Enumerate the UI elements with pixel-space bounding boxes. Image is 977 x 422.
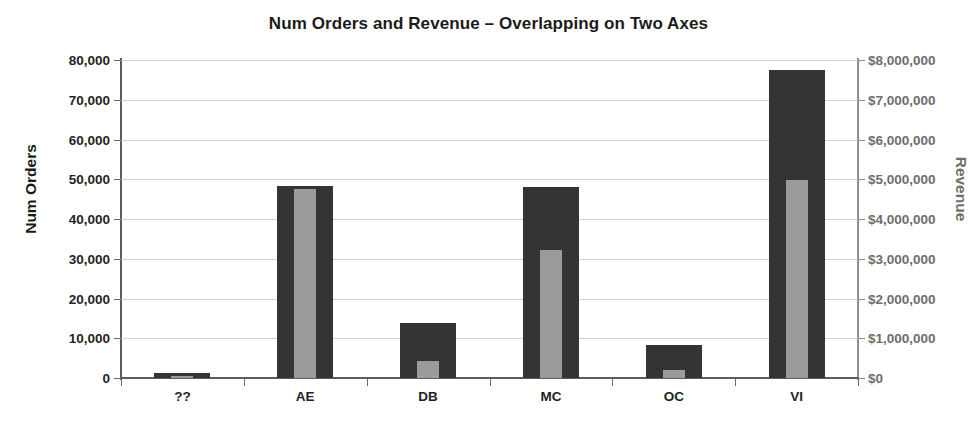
bar-revenue bbox=[294, 189, 316, 378]
gridline bbox=[121, 100, 858, 101]
y-axis-right-tick-label: $6,000,000 bbox=[868, 132, 973, 147]
y-axis-right-tick-label: $5,000,000 bbox=[868, 172, 973, 187]
x-axis-tick-label: OC bbox=[664, 389, 684, 404]
y-axis-left-tick bbox=[114, 299, 121, 300]
y-axis-right-tick bbox=[858, 140, 865, 141]
y-axis-left-tick-label: 10,000 bbox=[0, 331, 110, 346]
x-axis-tick bbox=[735, 379, 736, 386]
gridline bbox=[121, 140, 858, 141]
bar-revenue bbox=[417, 361, 439, 378]
chart-title: Num Orders and Revenue – Overlapping on … bbox=[0, 14, 977, 34]
y-axis-left-tick bbox=[114, 259, 121, 260]
y-axis-left-tick-label: 80,000 bbox=[0, 53, 110, 68]
y-axis-left-tick-label: 20,000 bbox=[0, 291, 110, 306]
y-axis-left-tick-label: 50,000 bbox=[0, 172, 110, 187]
x-axis-tick bbox=[121, 379, 122, 386]
gridline bbox=[121, 299, 858, 300]
x-axis-tick-label: VI bbox=[790, 389, 803, 404]
y-axis-right-tick bbox=[858, 378, 865, 379]
y-axis-right-tick-label: $4,000,000 bbox=[868, 212, 973, 227]
bar-revenue bbox=[786, 180, 808, 378]
x-axis-tick-label: ?? bbox=[174, 389, 191, 404]
y-axis-right-tick bbox=[858, 100, 865, 101]
y-axis-right-tick-label: $0 bbox=[868, 371, 973, 386]
y-axis-left-tick bbox=[114, 338, 121, 339]
y-axis-right-tick-label: $8,000,000 bbox=[868, 53, 973, 68]
y-axis-left-tick bbox=[114, 179, 121, 180]
x-axis-tick-label: DB bbox=[418, 389, 438, 404]
y-axis-left-tick-label: 40,000 bbox=[0, 212, 110, 227]
y-axis-right-tick bbox=[858, 179, 865, 180]
y-axis-right-tick bbox=[858, 299, 865, 300]
y-axis-left-tick bbox=[114, 219, 121, 220]
y-axis-right-tick-label: $2,000,000 bbox=[868, 291, 973, 306]
x-axis-tick bbox=[858, 379, 859, 386]
gridline bbox=[121, 179, 858, 180]
gridline bbox=[121, 60, 858, 61]
y-axis-left-tick-label: 70,000 bbox=[0, 92, 110, 107]
y-axis-right-tick bbox=[858, 60, 865, 61]
y-axis-left-tick bbox=[114, 60, 121, 61]
y-axis-right-tick bbox=[858, 259, 865, 260]
x-axis-tick bbox=[490, 379, 491, 386]
chart-container: Num Orders and Revenue – Overlapping on … bbox=[0, 0, 977, 422]
bar-revenue bbox=[171, 376, 193, 378]
y-axis-left-tick bbox=[114, 140, 121, 141]
gridline bbox=[121, 338, 858, 339]
x-axis-tick-label: MC bbox=[540, 389, 561, 404]
x-axis-tick bbox=[367, 379, 368, 386]
y-axis-left-tick-label: 0 bbox=[0, 371, 110, 386]
y-axis-right-tick-label: $1,000,000 bbox=[868, 331, 973, 346]
x-axis-tick-label: AE bbox=[296, 389, 315, 404]
bar-revenue bbox=[663, 370, 685, 378]
y-axis-left-tick bbox=[114, 378, 121, 379]
plot-area bbox=[121, 60, 858, 378]
gridline bbox=[121, 219, 858, 220]
y-axis-right-tick-label: $3,000,000 bbox=[868, 251, 973, 266]
y-axis-right-tick bbox=[858, 219, 865, 220]
y-axis-right-tick-label: $7,000,000 bbox=[868, 92, 973, 107]
gridline bbox=[121, 259, 858, 260]
bar-revenue bbox=[540, 250, 562, 378]
y-axis-left-tick-label: 30,000 bbox=[0, 251, 110, 266]
y-axis-right-tick bbox=[858, 338, 865, 339]
y-axis-left-tick bbox=[114, 100, 121, 101]
x-axis-tick bbox=[244, 379, 245, 386]
y-axis-left-tick-label: 60,000 bbox=[0, 132, 110, 147]
x-axis-tick bbox=[612, 379, 613, 386]
